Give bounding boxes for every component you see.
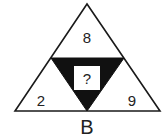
- top-value: 8: [83, 29, 91, 46]
- right-value: 9: [128, 92, 136, 109]
- triangle-puzzle: 8 2 9 ? B: [0, 0, 166, 140]
- center-value: ?: [83, 70, 91, 87]
- left-value: 2: [37, 92, 45, 109]
- figure-label: B: [80, 116, 93, 138]
